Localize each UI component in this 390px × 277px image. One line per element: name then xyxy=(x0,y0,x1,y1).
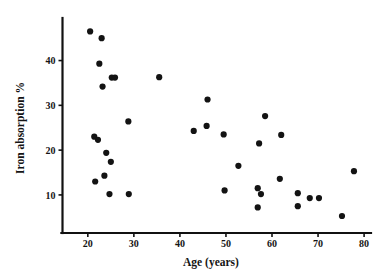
y-tick-label-40: 40 xyxy=(46,55,56,66)
data-point xyxy=(221,131,227,137)
scatter-plot-figure: 10203040 20304050607080 Age (years) Iron… xyxy=(0,0,390,277)
y-tick-label-20: 20 xyxy=(46,145,56,156)
data-point xyxy=(204,96,210,102)
x-tick-label-20: 20 xyxy=(83,238,93,249)
data-point xyxy=(221,187,227,193)
data-point xyxy=(307,195,313,201)
data-point xyxy=(99,35,105,41)
data-point xyxy=(258,191,264,197)
data-point xyxy=(235,163,241,169)
data-point xyxy=(351,168,357,174)
data-point xyxy=(96,61,102,67)
x-tick-label-50: 50 xyxy=(221,238,231,249)
data-point xyxy=(103,150,109,156)
data-point xyxy=(339,213,345,219)
x-tick-label-40: 40 xyxy=(175,238,185,249)
x-tick-label-30: 30 xyxy=(129,238,139,249)
data-points-layer xyxy=(87,28,357,219)
data-point xyxy=(126,191,132,197)
data-point xyxy=(99,83,105,89)
y-axis-tick-labels: 10203040 xyxy=(46,55,56,200)
data-point xyxy=(125,118,131,124)
chart-canvas: 10203040 20304050607080 Age (years) Iron… xyxy=(0,0,390,277)
data-point xyxy=(295,203,301,209)
data-point xyxy=(156,74,162,80)
data-point xyxy=(277,176,283,182)
data-point xyxy=(256,140,262,146)
data-point xyxy=(295,190,301,196)
data-point xyxy=(255,185,261,191)
x-tick-label-70: 70 xyxy=(313,238,323,249)
data-point xyxy=(106,191,112,197)
data-point xyxy=(92,178,98,184)
y-tick-label-10: 10 xyxy=(46,190,56,201)
data-point xyxy=(108,159,114,165)
data-point xyxy=(191,128,197,134)
data-point xyxy=(316,195,322,201)
x-tick-label-80: 80 xyxy=(359,238,369,249)
data-point xyxy=(101,173,107,179)
x-axis-tick-labels: 20304050607080 xyxy=(83,238,369,249)
data-point xyxy=(262,113,268,119)
x-tick-label-60: 60 xyxy=(267,238,277,249)
data-point xyxy=(112,74,118,80)
data-point xyxy=(278,132,284,138)
y-axis-title: Iron absorption % xyxy=(14,82,27,174)
data-point xyxy=(255,204,261,210)
data-point xyxy=(95,137,101,143)
data-point xyxy=(204,123,210,129)
x-axis-title: Age (years) xyxy=(183,256,239,269)
y-tick-label-30: 30 xyxy=(46,100,56,111)
data-point xyxy=(87,28,93,34)
